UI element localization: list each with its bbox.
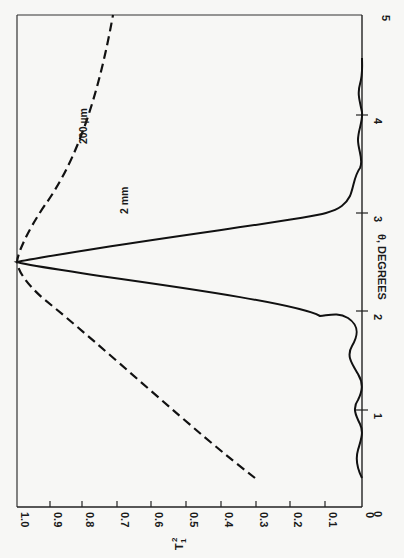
curve-2mm xyxy=(17,58,362,478)
svg-text:0.8: 0.8 xyxy=(84,512,96,527)
svg-text:3: 3 xyxy=(372,216,384,222)
svg-text:5: 5 xyxy=(380,15,392,21)
t-squared-axis-title: T 1 2 xyxy=(170,537,188,550)
svg-text:0: 0 xyxy=(372,511,384,517)
t-squared-tick-labels: 1.0 0.9 0.8 0.7 0.6 0.5 0.4 0.3 0.2 0.1 … xyxy=(19,512,376,528)
rotated-chart: 1.0 0.9 0.8 0.7 0.6 0.5 0.4 0.3 0.2 0.1 … xyxy=(0,0,404,558)
label-200um: 200 µm xyxy=(77,108,89,144)
svg-text:1: 1 xyxy=(372,413,384,419)
svg-text:0.9: 0.9 xyxy=(52,512,64,527)
svg-text:T: T xyxy=(173,543,185,550)
svg-text:0.3: 0.3 xyxy=(258,512,270,527)
svg-text:0.4: 0.4 xyxy=(223,512,235,528)
svg-text:0.1: 0.1 xyxy=(327,512,339,527)
plot-frame xyxy=(17,15,362,507)
svg-text:4: 4 xyxy=(372,118,384,125)
svg-text:0.7: 0.7 xyxy=(119,512,131,527)
svg-text:1.0: 1.0 xyxy=(19,512,31,527)
label-2mm: 2 mm xyxy=(118,187,130,214)
t-squared-ticks xyxy=(50,501,325,507)
svg-text:0.2: 0.2 xyxy=(292,512,304,527)
svg-text:0.6: 0.6 xyxy=(153,512,165,527)
curve-200um xyxy=(17,15,255,478)
svg-text:2: 2 xyxy=(372,314,384,320)
svg-text:2: 2 xyxy=(170,537,179,542)
svg-text:0.5: 0.5 xyxy=(188,512,200,527)
svg-text:1: 1 xyxy=(179,538,188,543)
theta-axis-title: θ, DEGREES xyxy=(376,234,388,300)
